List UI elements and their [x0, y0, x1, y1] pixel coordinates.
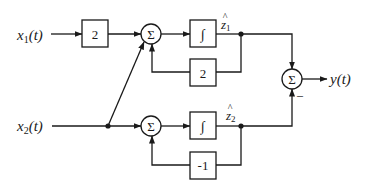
svg-text:Σ: Σ — [288, 72, 296, 87]
output-y-label: y(t) — [328, 71, 351, 88]
svg-text:z2: z2 — [225, 108, 236, 124]
wire-z2-to-sum3 — [241, 89, 292, 126]
wire-x2-to-sum1 — [108, 42, 144, 126]
wire-z2-to-feedback2 — [216, 126, 241, 165]
gain-block-x1: 2 — [82, 20, 108, 47]
svg-text:Σ: Σ — [147, 27, 155, 42]
minus-sign: – — [296, 88, 304, 102]
summer-3: Σ — [282, 69, 302, 89]
svg-text:2: 2 — [92, 27, 99, 42]
wire-feedback2-to-sum2 — [152, 136, 190, 165]
input-x1-label: x1(t) — [16, 27, 43, 45]
wire-z1-to-feedback1 — [216, 34, 241, 72]
input-x2-label: x2(t) — [16, 118, 43, 136]
feedback-block-2: -1 — [190, 152, 216, 179]
integrator-block-1: ∫ — [190, 20, 216, 47]
state-z1-label: ^ z1 — [220, 11, 231, 33]
svg-text:-1: -1 — [198, 158, 209, 173]
summer-2: Σ — [141, 116, 161, 136]
wire-feedback1-to-sum1 — [152, 44, 190, 72]
state-z2-label: ^ z2 — [225, 102, 236, 124]
integrator-block-2: ∫ — [190, 112, 216, 139]
svg-text:2: 2 — [200, 66, 207, 81]
svg-text:z1: z1 — [220, 17, 231, 33]
feedback-block-1: 2 — [190, 59, 216, 86]
block-diagram: x1(t) 2 Σ ∫ ^ z1 2 x2(t) Σ — [0, 0, 367, 188]
svg-text:Σ: Σ — [147, 119, 155, 134]
summer-1: Σ — [141, 24, 161, 44]
wire-z1-to-sum3 — [241, 34, 292, 69]
